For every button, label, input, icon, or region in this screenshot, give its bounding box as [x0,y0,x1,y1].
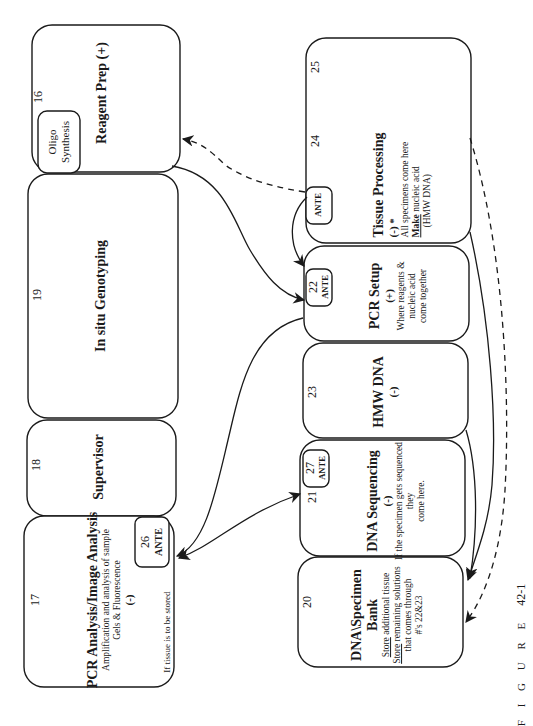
dna-seq-text: DNA Sequencing (-) If the specimen gets … [365,442,427,560]
pcr-analysis-title: PCR Analysis/Image Analysis [85,512,101,689]
ante-26-text: ANTE [153,528,165,556]
tissue-number-24: 24 [309,135,323,147]
pcr-setup-text: PCR Setup (+) Where reagents & nucleic a… [367,261,429,330]
arrow-tissue-to-bank-solid [468,232,494,580]
hmw-title: HMW DNA [371,356,387,428]
ante-22-text: ANTE [321,275,331,299]
tissue-line2-rest: nucleic acid [411,166,421,214]
pcr-setup-sign: (+) [383,261,396,330]
ante-22-label: 22 ANTE [307,275,331,299]
pcr-setup-line2: nucleic acid [407,261,418,330]
dna-seq-title: DNA Sequencing [365,442,381,560]
pcr-analysis-sign: (-) [123,512,136,689]
pcr-analysis-note: If tissue is to be stored [162,591,172,672]
dna-seq-line1: If the specimen gets sequenced [394,442,405,560]
tissue-line1: All specimens come here [400,133,411,238]
bank-line4: #'s 22&23 [414,566,425,664]
hmw-sign: (-) [387,356,400,428]
supervisor-title: Supervisor [91,434,107,499]
arrow-pcranalysis-to-dnaseq [179,494,300,558]
figure-caption: F I G U R E 42-1 [511,584,529,726]
dna-seq-sign: (-) [381,442,394,560]
reagent-prep-number: 16 [32,91,46,103]
dna-seq-line3: come here. [416,442,427,560]
pcr-setup-title: PCR Setup [367,261,383,330]
arrow-tissue-to-pcrsetup [292,197,307,266]
bank-line1-rest: additional tissue [381,573,391,637]
pcr-analysis-line1: Amplification and analysis of sample [101,512,112,689]
pcr-setup-number: 22 [307,275,321,299]
bank-text: DNA\Specimen Bank Store additional tissu… [349,566,425,664]
bank-line2-u: Store [392,644,402,664]
ante-tissue-label: ANTE [314,193,324,217]
arrow-tissue-to-reagent [183,139,305,192]
arrow-pcrsetup-to-pcranalysis [177,318,303,556]
in-situ-number: 19 [31,289,45,301]
oligo-synthesis-label: Oligo Synthesis [46,121,71,163]
hmw-text: HMW DNA (-) [371,356,400,428]
bank-number: 20 [301,596,315,608]
arrow-reagent-to-pcrsetup [172,166,304,300]
dna-seq-number: 21 [306,491,320,503]
supervisor-number: 18 [30,459,44,471]
bank-line1: Store additional tissue [381,566,392,664]
in-situ-title: In situ Genotyping [93,240,109,352]
tissue-sign: (-) * [387,133,400,238]
pcr-setup-line1: Where reagents & [396,261,407,330]
oligo-line2: Synthesis [59,121,72,163]
bank-line2-rest: remaining solutions [392,566,402,644]
bank-line2: Store remaining solutions [392,566,403,664]
ante-27-text: ANTE [318,456,328,480]
tissue-line3: (HMW DNA) [422,133,433,238]
oligo-line1: Oligo [46,121,59,163]
figure-label: F I G U R E [515,618,527,726]
ante-26-label: 26 ANTE [139,528,164,556]
pcr-analysis-text: PCR Analysis/Image Analysis Amplificatio… [85,512,136,689]
hmw-number: 23 [306,386,320,398]
bank-line3: that comes through [403,566,414,664]
tissue-line2: Make nucleic acid [411,133,422,238]
pcr-setup-line3: come together [418,261,429,330]
ante-27-label: 27 ANTE [304,456,328,480]
tissue-line2-u: Make [411,214,421,237]
ante-26-number: 26 [139,528,153,556]
arrow-hmw-to-bank [466,430,476,578]
pcr-analysis-number: 17 [29,594,43,606]
dna-seq-line2: they [405,442,416,560]
bank-line1-u: Store [381,637,391,657]
pcr-analysis-line2: Gels & Fluorescence [112,512,123,689]
arrow-tissue-to-bank-dashed [466,138,507,622]
ante-27-number: 27 [304,456,318,480]
tissue-number-25: 25 [309,61,323,73]
bank-title2: Bank [365,566,381,664]
reagent-prep-title: Reagent Prep (+) [94,42,110,144]
tissue-processing-text: Tissue Processing (-) * All specimens co… [371,133,433,238]
bank-title1: DNA\Specimen [349,566,365,664]
figure-number: 42-1 [514,584,528,606]
tissue-title: Tissue Processing [371,133,387,238]
